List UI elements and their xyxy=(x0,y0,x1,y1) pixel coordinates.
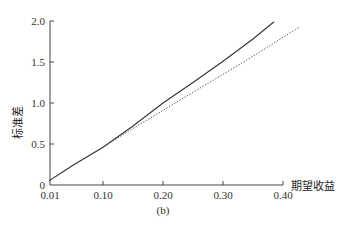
x-tick-label: 0.20 xyxy=(153,189,173,201)
series-dashed-line xyxy=(49,27,300,181)
y-tick-label: 1.5 xyxy=(31,56,45,68)
y-tick-label: 0.5 xyxy=(31,138,45,150)
chart-caption: (b) xyxy=(157,204,170,217)
x-tick-label: 0.30 xyxy=(213,189,233,201)
x-tick-label: 0.01 xyxy=(40,189,59,201)
x-ticks: 0.010.100.200.300.40 xyxy=(40,181,293,201)
y-tick-label: 1.0 xyxy=(31,97,45,109)
series-layer xyxy=(49,22,300,181)
y-tick-label: 2.0 xyxy=(31,15,45,27)
axes: 00.51.01.52.0 0.010.100.200.300.40 xyxy=(31,15,293,201)
line-chart: 00.51.01.52.0 0.010.100.200.300.40 标准差 期… xyxy=(0,0,346,227)
x-axis-title: 期望收益 xyxy=(291,179,335,193)
series-solid-line xyxy=(49,22,274,181)
x-tick-label: 0.10 xyxy=(93,189,113,201)
y-axis-title: 标准差 xyxy=(11,106,25,139)
y-ticks: 00.51.01.52.0 xyxy=(31,15,54,191)
